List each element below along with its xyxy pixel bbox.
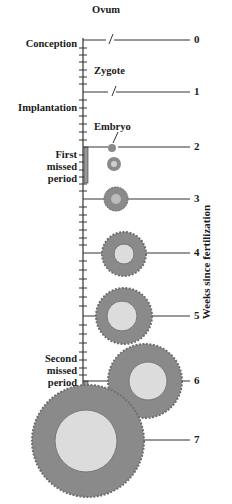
event-first-missed-3: period <box>48 173 77 185</box>
week-label-1: 1 <box>194 85 200 97</box>
week-label-5: 5 <box>194 309 200 321</box>
stage-label-embryo: Embryo <box>94 121 131 133</box>
stage-label-ovum: Ovum <box>92 4 120 16</box>
week-label-0: 0 <box>194 33 200 45</box>
axis-title: Weeks since fertilization <box>200 205 212 319</box>
event-implantation: Implantation <box>18 102 77 114</box>
event-second-missed-3: period <box>48 377 77 389</box>
week-label-7: 7 <box>194 433 200 445</box>
week-label-4: 4 <box>194 246 200 258</box>
event-conception: Conception <box>26 38 77 50</box>
event-first-missed-1: First <box>55 149 77 161</box>
event-second-missed-2: missed <box>47 365 77 377</box>
event-first-missed-2: missed <box>47 161 77 173</box>
week-label-3: 3 <box>194 192 200 204</box>
event-second-missed-1: Second <box>45 353 77 365</box>
stage-label-zygote: Zygote <box>94 65 125 77</box>
week-label-6: 6 <box>194 374 200 386</box>
week-label-2: 2 <box>194 140 200 152</box>
